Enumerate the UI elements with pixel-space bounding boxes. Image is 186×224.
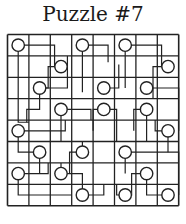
circle-node[interactable] [119,189,131,201]
circle-node[interactable] [33,146,45,158]
puzzle-board[interactable] [0,0,186,224]
circle-node[interactable] [140,167,152,179]
circle-node[interactable] [12,167,24,179]
circle-node[interactable] [76,189,88,201]
circle-node[interactable] [162,189,174,201]
circle-node[interactable] [162,125,174,137]
circle-node[interactable] [12,125,24,137]
circle-node[interactable] [98,82,110,94]
circle-node[interactable] [119,146,131,158]
circle-node[interactable] [76,39,88,51]
circle-node[interactable] [55,103,67,115]
circle-node[interactable] [162,60,174,72]
circle-node[interactable] [55,167,67,179]
circle-node[interactable] [140,82,152,94]
circle-node[interactable] [12,39,24,51]
circle-node[interactable] [119,39,131,51]
circle-node[interactable] [55,60,67,72]
circle-node[interactable] [76,146,88,158]
circle-node[interactable] [98,103,110,115]
circle-node[interactable] [140,103,152,115]
circle-node[interactable] [33,82,45,94]
